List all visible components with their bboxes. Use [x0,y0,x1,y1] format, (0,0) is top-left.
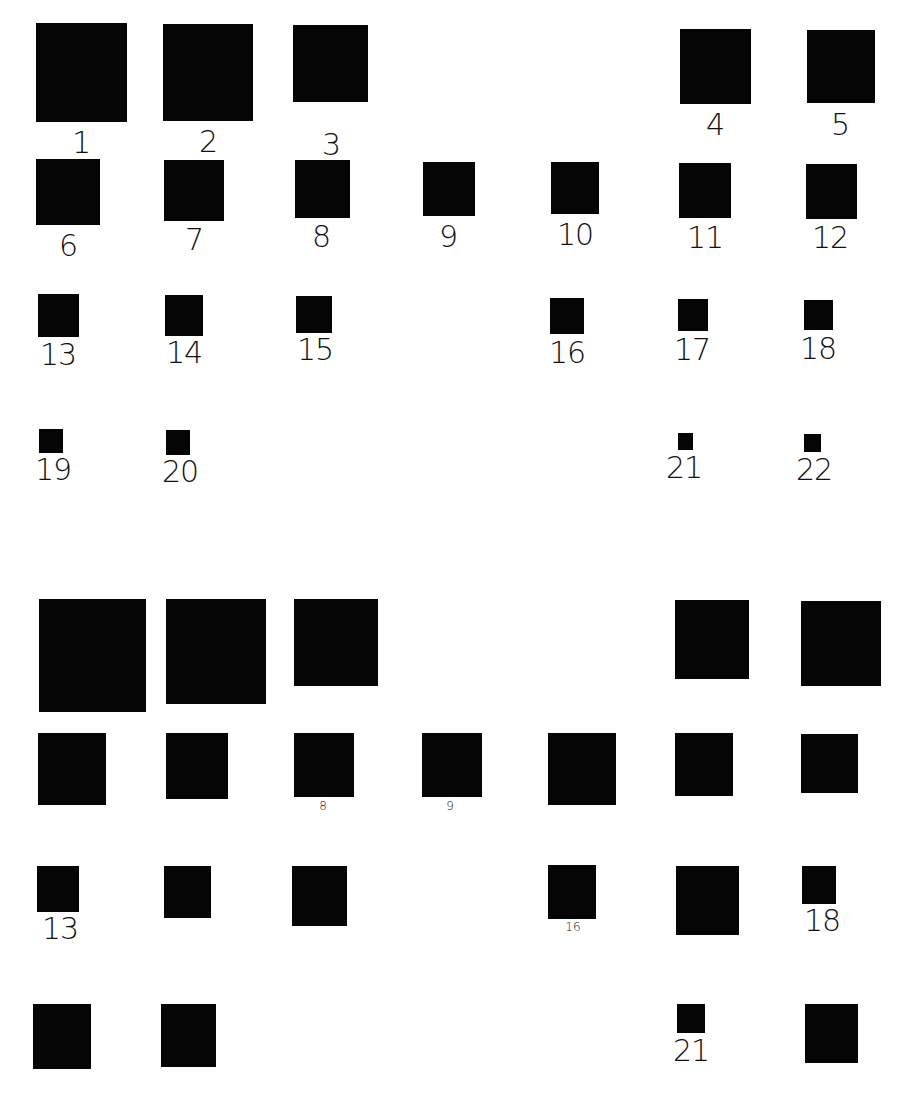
square-label-3: 3 [322,130,340,160]
square-22 [804,434,821,452]
square-label-15: 15 [297,335,333,365]
square-1 [36,23,127,122]
square-label-4: 4 [706,110,724,140]
square-5 [807,30,875,103]
square-1 [39,599,146,712]
square-label-17: 17 [674,335,710,365]
square-19 [39,429,63,453]
square-11 [679,163,731,218]
square-13 [37,866,79,912]
square-label-21: 21 [666,453,702,483]
square-5 [801,601,881,686]
square-label-13: 13 [40,340,76,370]
square-label-14: 14 [166,338,202,368]
square-label-9: 9 [446,800,454,812]
square-6 [38,733,106,805]
square-17 [676,866,739,935]
square-12 [806,164,857,219]
square-19 [33,1004,91,1069]
square-9 [422,733,482,797]
square-label-22: 22 [796,455,832,485]
square-12 [801,734,858,793]
square-18 [804,300,833,330]
square-label-2: 2 [199,127,217,157]
square-6 [36,159,100,225]
square-15 [296,296,332,333]
square-2 [163,24,253,121]
square-7 [166,733,228,799]
square-label-18: 18 [800,334,836,364]
square-8 [295,160,350,218]
square-label-20: 20 [162,457,198,487]
square-14 [164,866,211,918]
square-4 [680,29,751,104]
square-9 [423,162,475,216]
square-21 [678,433,693,450]
square-label-7: 7 [185,225,203,255]
square-7 [164,160,224,221]
square-17 [678,299,708,331]
square-label-18: 18 [804,906,840,936]
square-label-9: 9 [439,222,457,252]
square-2 [166,599,266,704]
square-21 [677,1004,705,1033]
square-11 [675,733,733,796]
square-label-8: 8 [312,222,330,252]
square-label-5: 5 [831,110,849,140]
square-15 [292,866,347,926]
square-label-11: 11 [687,223,723,253]
square-18 [802,866,836,904]
square-label-10: 10 [557,220,593,250]
square-8 [294,733,354,797]
square-10 [551,162,599,214]
square-16 [548,865,596,919]
square-label-16: 16 [549,338,585,368]
square-label-8: 8 [319,800,327,812]
square-label-19: 19 [35,455,71,485]
square-label-1: 1 [72,128,90,158]
square-20 [166,430,190,455]
square-label-16: 16 [565,921,580,933]
square-20 [161,1004,216,1067]
square-13 [38,294,79,337]
square-4 [675,600,749,679]
square-label-21: 21 [673,1036,709,1066]
square-16 [550,298,584,334]
square-3 [294,599,378,686]
square-14 [165,295,203,336]
square-3 [293,25,368,102]
square-label-6: 6 [59,231,77,261]
square-22 [805,1004,858,1063]
square-10 [548,733,616,805]
square-label-13: 13 [42,914,78,944]
square-label-12: 12 [812,223,848,253]
